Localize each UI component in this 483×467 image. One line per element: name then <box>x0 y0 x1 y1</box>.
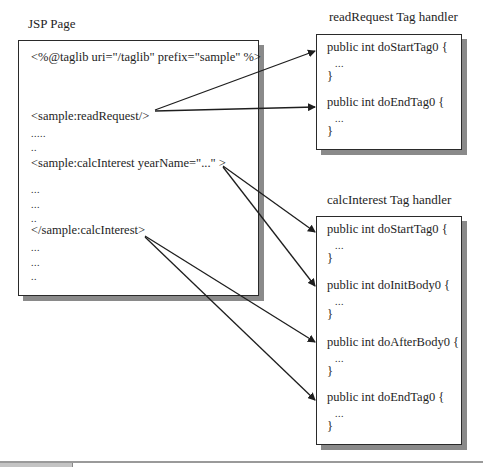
arrow-calcinterest-doafterbody <box>145 236 315 342</box>
connector-arrows <box>0 0 483 467</box>
arrow-calcinterest-doinitbody <box>223 167 315 286</box>
bottom-tab-block <box>0 463 73 467</box>
arrow-calcinterest-dostarttag <box>223 166 315 232</box>
arrow-calcinterest-doendtag <box>145 237 315 400</box>
arrow-readrequest-dostarttag <box>155 51 315 110</box>
arrow-readrequest-doendtag <box>155 107 315 111</box>
